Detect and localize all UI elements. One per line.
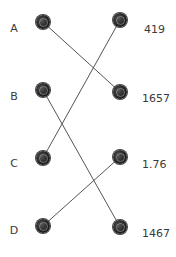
line-A-1657	[43, 22, 120, 92]
connection-lines	[0, 0, 176, 257]
right-node-1.76[interactable]	[113, 150, 127, 164]
line-D-1.76	[43, 157, 120, 226]
left-node-D[interactable]	[36, 219, 50, 233]
left-label-A: A	[7, 23, 21, 35]
right-node-419[interactable]	[113, 13, 127, 27]
matching-diagram: A B C D 419 1657 1.76 1467	[0, 0, 176, 257]
right-label-1.76: 1.76	[142, 159, 167, 171]
left-label-D: D	[7, 225, 21, 237]
right-label-419: 419	[144, 24, 165, 36]
left-node-C[interactable]	[36, 151, 50, 165]
right-node-1467[interactable]	[113, 220, 127, 234]
left-node-B[interactable]	[36, 83, 50, 97]
right-node-1657[interactable]	[113, 85, 127, 99]
right-label-1467: 1467	[142, 228, 170, 240]
left-node-A[interactable]	[36, 15, 50, 29]
line-B-1467	[43, 90, 120, 227]
left-label-B: B	[7, 91, 21, 103]
left-label-C: C	[7, 158, 21, 170]
right-label-1657: 1657	[142, 93, 170, 105]
line-C-419	[43, 20, 120, 158]
